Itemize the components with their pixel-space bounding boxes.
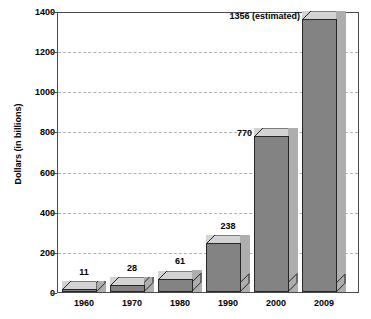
data-label-1960: 11	[79, 267, 89, 277]
y-tick-label-0: 0	[15, 288, 55, 298]
data-label-1980: 61	[175, 256, 185, 266]
y-tick-label-600: 600	[15, 168, 55, 178]
bar-2000-front	[254, 136, 289, 292]
bar-1980-side	[192, 270, 202, 292]
bar-1990-side	[240, 235, 250, 292]
data-label-1990: 238	[220, 221, 235, 231]
bar-1970	[110, 274, 154, 292]
bar-2009-side	[336, 11, 346, 292]
bar-chart: Dollars (in billions) 1400 1200 1000 800…	[0, 0, 371, 319]
plot-area: 11 28	[57, 12, 359, 293]
bar-1980-front	[158, 279, 193, 292]
x-tick-label-1960: 1960	[74, 298, 94, 308]
data-label-2009: 1356 (estimated)	[229, 11, 300, 21]
bar-1990	[206, 232, 250, 292]
bar-1980	[158, 267, 202, 292]
bar-2009-front	[302, 19, 337, 292]
bar-2009	[302, 9, 346, 292]
bar-1960	[62, 278, 106, 292]
x-tick-label-1990: 1990	[218, 298, 238, 308]
x-tick-label-1980: 1980	[170, 298, 190, 308]
x-tick-label-2009: 2009	[314, 298, 334, 308]
x-tick-label-1970: 1970	[122, 298, 142, 308]
y-tick-label-400: 400	[15, 208, 55, 218]
y-tick-label-800: 800	[15, 127, 55, 137]
bar-1960-side	[96, 281, 106, 292]
data-label-1970: 28	[127, 263, 137, 273]
y-tick-label-1000: 1000	[15, 87, 55, 97]
bar-2000-side	[288, 128, 298, 292]
bar-1990-front	[206, 243, 241, 292]
bar-1970-side	[144, 277, 154, 292]
bar-1970-front	[110, 285, 145, 292]
bar-1960-front	[62, 289, 97, 292]
bar-2000	[254, 126, 298, 292]
y-tick-label-1400: 1400	[15, 7, 55, 17]
x-tick-label-2000: 2000	[266, 298, 286, 308]
y-axis-ticks: 1400 1200 1000 800 600 400 200 0	[0, 12, 55, 293]
data-label-2000: 770	[237, 128, 252, 138]
y-tick-label-1200: 1200	[15, 47, 55, 57]
y-tickmark-0	[51, 293, 57, 294]
y-tick-label-200: 200	[15, 248, 55, 258]
